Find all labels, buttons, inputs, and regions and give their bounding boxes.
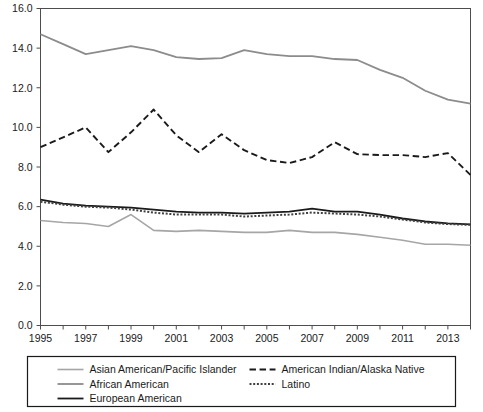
- x-tick-label: 2013: [436, 332, 460, 344]
- y-axis-tick-marks: [37, 9, 41, 326]
- x-axis-tick-marks: [41, 326, 471, 330]
- chart-figure: 0.02.04.06.08.010.012.014.016.0 19951997…: [0, 0, 483, 412]
- plot-area-border: [41, 9, 471, 326]
- x-tick-label: 1995: [29, 332, 53, 344]
- y-tick-label: 10.0: [12, 121, 33, 133]
- x-tick-label: 1999: [119, 332, 143, 344]
- y-tick-label: 4.0: [18, 240, 33, 252]
- x-tick-label: 2009: [346, 332, 370, 344]
- y-tick-label: 14.0: [12, 42, 33, 54]
- y-tick-label: 8.0: [18, 161, 33, 173]
- x-tick-label: 2001: [165, 332, 189, 344]
- y-tick-label: 0.0: [18, 319, 33, 331]
- legend-label-0: Asian American/Pacific Islander: [90, 363, 238, 375]
- series-line-1: [41, 34, 471, 103]
- legend-label-1: African American: [90, 378, 170, 390]
- x-tick-label: 2007: [300, 332, 324, 344]
- y-axis-tick-labels: 0.02.04.06.08.010.012.014.016.0: [12, 2, 33, 331]
- series-line-3: [41, 110, 471, 175]
- x-tick-label: 1997: [74, 332, 98, 344]
- y-tick-label: 6.0: [18, 200, 33, 212]
- line-chart: 0.02.04.06.08.010.012.014.016.0 19951997…: [0, 0, 483, 412]
- y-tick-label: 2.0: [18, 280, 33, 292]
- x-tick-label: 2003: [210, 332, 234, 344]
- y-tick-label: 16.0: [12, 2, 33, 14]
- x-axis-tick-labels: 1995199719992001200320052007200920112013: [29, 332, 460, 344]
- legend-label-3: American Indian/Alaska Native: [282, 363, 425, 375]
- x-tick-label: 2011: [391, 332, 414, 344]
- legend-entries: Asian American/Pacific IslanderAfrican A…: [58, 363, 425, 404]
- series-lines: [41, 34, 471, 245]
- y-tick-label: 12.0: [12, 82, 33, 94]
- legend-label-4: Latino: [282, 378, 311, 390]
- x-tick-label: 2005: [255, 332, 279, 344]
- legend-label-2: European American: [90, 392, 182, 404]
